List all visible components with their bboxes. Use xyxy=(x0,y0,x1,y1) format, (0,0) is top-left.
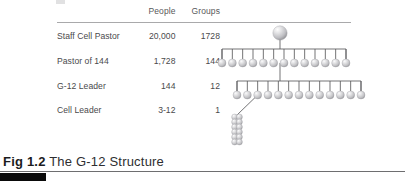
tree-nodes xyxy=(218,26,365,145)
tree-node-tier2 xyxy=(316,91,324,99)
column-header-groups: Groups xyxy=(177,6,222,16)
tree-node-tier1 xyxy=(301,59,309,67)
tree-node-tier1 xyxy=(239,59,247,67)
tree-node-tier1 xyxy=(259,59,267,67)
tree-node-tier1 xyxy=(280,59,288,67)
tree-node-tier2 xyxy=(357,91,365,99)
tree-node-tier2 xyxy=(274,91,282,99)
tree-node-tier1 xyxy=(321,59,329,67)
row-label: Pastor of 144 xyxy=(57,56,124,66)
tree-node-tier1 xyxy=(218,59,226,67)
table-row: Staff Cell Pastor 20,000 1728 xyxy=(57,31,222,56)
row-people: 3-12 xyxy=(124,105,176,115)
tree-node-tier2 xyxy=(326,91,334,99)
tree-node-tier2 xyxy=(285,91,293,99)
row-label: Cell Leader xyxy=(57,105,124,115)
column-header-people: People xyxy=(124,6,176,16)
row-label: Staff Cell Pastor xyxy=(57,31,124,41)
tree-node-tier1 xyxy=(332,59,340,67)
tree-node-tier2 xyxy=(254,91,262,99)
bottom-divider-rule xyxy=(0,171,405,172)
table-body: Staff Cell Pastor 20,000 1728 Pastor of … xyxy=(57,31,222,130)
row-label: G-12 Leader xyxy=(57,81,124,91)
bottom-black-tab xyxy=(0,173,46,181)
tree-node-root xyxy=(273,26,287,40)
tree-node-tier1 xyxy=(270,59,278,67)
g12-structure-diagram xyxy=(210,20,405,165)
table-row: G-12 Leader 144 12 xyxy=(57,81,222,106)
figure-number: Fig 1.2 xyxy=(3,154,46,169)
table-row: Pastor of 144 1,728 144 xyxy=(57,56,222,81)
tree-node-tier2 xyxy=(347,91,355,99)
tree-node-tier2 xyxy=(336,91,344,99)
table-row: Cell Leader 3-12 1 xyxy=(57,105,222,130)
tree-node-tier1 xyxy=(311,59,319,67)
figure-caption-text: The G-12 Structure xyxy=(46,154,164,169)
top-edge-artifact xyxy=(56,0,65,4)
tree-node-tier2 xyxy=(264,91,272,99)
tree-diagram-svg xyxy=(210,20,405,165)
figure-container: People Groups Staff Cell Pastor 20,000 1… xyxy=(0,0,405,181)
tree-node-tier1 xyxy=(228,59,236,67)
data-table: People Groups xyxy=(57,6,222,19)
figure-caption: Fig 1.2 The G-12 Structure xyxy=(3,154,164,169)
tree-node-tier1 xyxy=(249,59,257,67)
table-header-row: People Groups xyxy=(57,6,222,19)
tree-node-tier2 xyxy=(233,91,241,99)
tree-node-tier2 xyxy=(243,91,251,99)
row-people: 20,000 xyxy=(124,31,176,41)
tree-connector-lines xyxy=(222,39,361,115)
row-people: 144 xyxy=(124,81,176,91)
tree-node-tier1 xyxy=(290,59,298,67)
tree-node-tier2 xyxy=(295,91,303,99)
tree-node-tier1 xyxy=(342,59,350,67)
row-people: 1,728 xyxy=(124,56,176,66)
tree-node-tier2 xyxy=(305,91,313,99)
tree-node-cell xyxy=(236,139,242,145)
